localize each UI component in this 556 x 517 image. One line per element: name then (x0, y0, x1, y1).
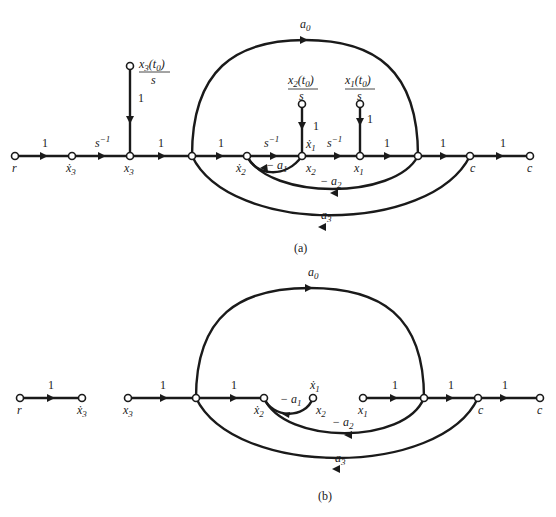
node-x1 (357, 153, 364, 160)
node-label-c-out: c (527, 161, 533, 175)
gain-label: 1 (448, 378, 454, 392)
node-c (467, 153, 474, 160)
node-label-c: c (478, 403, 484, 417)
arrow-icon (390, 394, 398, 402)
node-x3 (125, 395, 132, 402)
arrow-icon (446, 394, 454, 402)
arrow-icon (440, 152, 448, 160)
ic-label-x3: x3(t0) s (138, 57, 170, 87)
gain-label-minus-a3: − a3 (310, 208, 332, 224)
arrow-icon (356, 118, 364, 126)
node-junction-2 (421, 395, 428, 402)
gain-label: 1 (440, 136, 446, 150)
gain-label: 1 (160, 378, 166, 392)
gain-label: 1 (367, 112, 373, 126)
arrow-icon (384, 152, 392, 160)
gain-label-minus-a3: − a3 (324, 451, 346, 467)
arrow-icon (334, 152, 342, 160)
gain-label: 1 (500, 136, 506, 150)
node-label-c-out: c (537, 403, 543, 417)
node-x2dot (261, 395, 268, 402)
arrow-icon (216, 152, 224, 160)
arrow-icon (496, 152, 504, 160)
gain-label: 1 (313, 119, 319, 133)
node-label-x2: x2 (305, 161, 316, 177)
node-x2 (299, 153, 306, 160)
ic-denominator: s (299, 89, 304, 103)
arrow-icon (98, 152, 106, 160)
caption-b: (b) (318, 489, 332, 503)
gain-label-s-inv: s−1 (264, 134, 279, 150)
arrow-icon (300, 36, 308, 44)
graph-b: 1 1 1 1 1 1 a0 − a1 − a2 − a3 r ẋ3 x3 ẋ2… (17, 265, 544, 503)
node-label-x3: x3 (122, 403, 133, 419)
node-label-x1: x1 (357, 403, 368, 419)
node-x2 (310, 395, 317, 402)
gain-label-minus-a1: − a1 (280, 392, 302, 408)
arrow-icon (298, 122, 306, 130)
gain-label-a0: a0 (308, 265, 319, 281)
node-label-x2dot: ẋ2 (235, 161, 246, 177)
gain-label: 1 (48, 378, 54, 392)
node-x3dot (79, 395, 86, 402)
ic-label-x1: x1(t0) s (344, 73, 375, 103)
node-x3dot (69, 153, 76, 160)
node-label-x3dot: ẋ3 (76, 403, 87, 419)
node-label-x2: x2 (315, 403, 326, 419)
arrow-icon (332, 465, 340, 473)
caption-a: (a) (294, 241, 307, 255)
gain-label-minus-a2: − a2 (320, 174, 342, 190)
gain-label: 1 (384, 136, 390, 150)
gain-label-a0: a0 (300, 17, 311, 33)
node-label-x1dot: ẋ1 (309, 378, 320, 394)
node-label-x1: x1 (353, 161, 364, 177)
node-label-x3dot: ẋ3 (65, 161, 76, 177)
node-r (12, 153, 19, 160)
nodes-a (12, 63, 534, 160)
graph-a: 1 s−1 1 1 1 s−1 1 s−1 1 1 1 1 a0 − a1 − … (12, 17, 534, 255)
gain-label-minus-a2: − a2 (332, 415, 354, 431)
node-label-x3: x3 (123, 161, 134, 177)
gain-label-s-inv: s−1 (327, 134, 342, 150)
arrow-icon (40, 152, 48, 160)
gain-label: 1 (158, 136, 164, 150)
arrow-icon (330, 189, 338, 197)
gain-label: 1 (42, 136, 48, 150)
ic-denominator: s (151, 73, 156, 87)
arrow-icon (126, 116, 134, 124)
ic-denominator: s (357, 89, 362, 103)
gain-label-minus-a1: − a1 (266, 158, 288, 174)
arrow-icon (500, 394, 508, 402)
node-x3 (127, 153, 134, 160)
arrow-icon (158, 152, 166, 160)
node-r (17, 395, 24, 402)
gain-label-s-inv: s−1 (95, 134, 110, 150)
arrow-icon (305, 284, 313, 292)
gain-label: 1 (138, 91, 144, 105)
node-junction-1 (193, 395, 200, 402)
arrow-icon (160, 394, 168, 402)
signal-flow-graph: 1 s−1 1 1 1 s−1 1 s−1 1 1 1 1 a0 − a1 − … (0, 0, 556, 517)
node-label-r: r (12, 161, 17, 175)
node-label-x2dot: ẋ2 (253, 403, 264, 419)
ic-numerator: x1(t0) (344, 73, 371, 89)
node-x1 (360, 395, 367, 402)
node-label-r: r (17, 403, 22, 417)
gain-label: 1 (218, 136, 224, 150)
gain-label: 1 (502, 378, 508, 392)
node-junction-2 (415, 153, 422, 160)
node-label-c: c (470, 161, 476, 175)
arrow-icon (47, 394, 55, 402)
node-ic-x3 (127, 63, 134, 70)
gain-label: 1 (231, 378, 237, 392)
ic-numerator: x2(t0) (287, 73, 314, 89)
gain-labels-a: 1 s−1 1 1 1 s−1 1 s−1 1 1 1 1 a0 − a1 − … (42, 17, 506, 224)
node-c-out (527, 153, 534, 160)
node-c-out (537, 395, 544, 402)
gain-label: 1 (392, 378, 398, 392)
ic-label-x2: x2(t0) s (287, 73, 318, 103)
node-c (475, 395, 482, 402)
node-x2dot (244, 153, 251, 160)
arrow-icon (318, 223, 326, 231)
arrow-icon (230, 394, 238, 402)
